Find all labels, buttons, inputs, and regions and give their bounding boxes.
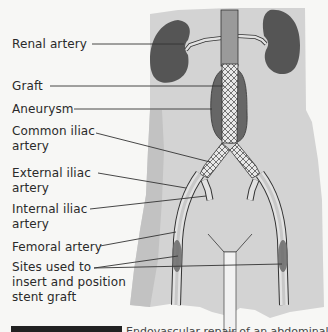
- label-line: External iliac: [12, 166, 91, 181]
- label-line: Sites used to: [12, 260, 126, 275]
- label-line: Internal iliac: [12, 202, 87, 217]
- caption-heading-bar: [11, 326, 122, 332]
- label-access-sites: Sites used to insert and position stent …: [12, 260, 126, 305]
- aorta: [221, 10, 238, 66]
- label-femoral-artery: Femoral artery: [12, 240, 102, 255]
- stent-graft-body: [222, 64, 238, 143]
- label-renal-artery: Renal artery: [12, 37, 87, 52]
- right-femoral-access-site: [278, 240, 288, 272]
- caption-text: Endovascular repair of an abdominal aort…: [126, 326, 328, 332]
- label-internal-iliac-artery: Internal iliac artery: [12, 202, 87, 232]
- label-line: artery: [12, 181, 91, 196]
- label-line: artery: [12, 139, 95, 154]
- label-graft: Graft: [12, 79, 43, 94]
- label-line: Common iliac: [12, 124, 95, 139]
- label-line: insert and position: [12, 275, 126, 290]
- midline-tube: [224, 252, 236, 332]
- label-external-iliac-artery: External iliac artery: [12, 166, 91, 196]
- label-line: artery: [12, 217, 87, 232]
- label-line: stent graft: [12, 290, 126, 305]
- label-aneurysm: Aneurysm: [12, 102, 74, 117]
- label-common-iliac-artery: Common iliac artery: [12, 124, 95, 154]
